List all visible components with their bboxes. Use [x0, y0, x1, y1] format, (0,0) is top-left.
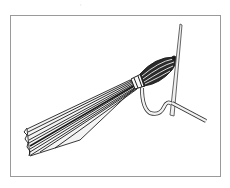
tassel-skirt — [24, 80, 137, 156]
tassel-needle-illustration — [0, 0, 230, 188]
tassel-head — [140, 56, 176, 86]
